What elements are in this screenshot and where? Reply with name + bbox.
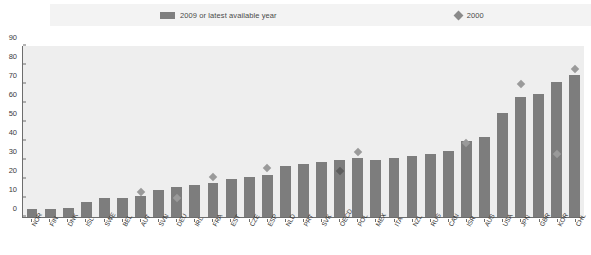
bar-column[interactable]: [421, 46, 439, 217]
x-axis-cell: GBR: [530, 219, 548, 255]
x-axis-cell: JPN: [511, 219, 529, 255]
legend-label-points: 2000: [467, 11, 484, 20]
bars-layer: [23, 46, 584, 217]
bar-column[interactable]: [349, 46, 367, 217]
data-point-marker[interactable]: [571, 65, 579, 73]
x-axis-cell: CHL: [566, 219, 584, 255]
bar-column[interactable]: [548, 46, 566, 217]
bar-column[interactable]: [331, 46, 349, 217]
bar[interactable]: [244, 177, 255, 217]
diamond-marker-icon: [453, 10, 463, 20]
bar-column[interactable]: [258, 46, 276, 217]
bar-column[interactable]: [77, 46, 95, 217]
x-axis-cell: PRT: [294, 219, 312, 255]
x-axis-cell: SVN: [149, 219, 167, 255]
x-axis-cell: CAN: [439, 219, 457, 255]
bar[interactable]: [497, 113, 508, 218]
bar-column[interactable]: [168, 46, 186, 217]
y-axis-tick-label: 20: [0, 166, 23, 175]
bar-column[interactable]: [475, 46, 493, 217]
x-axis-cell: AUT: [131, 219, 149, 255]
bar-column[interactable]: [294, 46, 312, 217]
x-axis-labels: NORFINDNKISLSWEBELAUTSVNDEUIRLFRAESTCZEE…: [22, 219, 584, 255]
bar-column[interactable]: [204, 46, 222, 217]
bar[interactable]: [389, 158, 400, 217]
bar-column[interactable]: [493, 46, 511, 217]
bar-column[interactable]: [23, 46, 41, 217]
y-axis-tick-label: 80: [0, 52, 23, 61]
x-axis-cell: NOR: [22, 219, 40, 255]
plot-inner: 0102030405060708090: [23, 46, 584, 217]
bar[interactable]: [407, 156, 418, 217]
bar[interactable]: [352, 158, 363, 217]
x-axis-cell: ISR: [457, 219, 475, 255]
data-point-marker[interactable]: [516, 80, 524, 88]
bar[interactable]: [189, 185, 200, 217]
bar[interactable]: [569, 75, 580, 218]
x-axis-cell: OECD: [330, 219, 348, 255]
x-axis-cell: DEU: [167, 219, 185, 255]
bar[interactable]: [443, 151, 454, 218]
legend-entry-bars: 2009 or latest available year: [160, 11, 277, 20]
bar-column[interactable]: [276, 46, 294, 217]
bar[interactable]: [262, 175, 273, 217]
bar[interactable]: [515, 97, 526, 217]
data-point-marker[interactable]: [263, 163, 271, 171]
bar-column[interactable]: [150, 46, 168, 217]
x-axis-cell: KOR: [548, 219, 566, 255]
x-axis-cell: AUS: [475, 219, 493, 255]
bar-column[interactable]: [566, 46, 584, 217]
y-axis-tick-label: 60: [0, 90, 23, 99]
bar-column[interactable]: [113, 46, 131, 217]
bar[interactable]: [370, 160, 381, 217]
legend-entry-points: 2000: [455, 11, 484, 20]
x-axis-cell: DNK: [58, 219, 76, 255]
bar[interactable]: [298, 164, 309, 217]
bar[interactable]: [479, 137, 490, 217]
bar-column[interactable]: [222, 46, 240, 217]
bar-column[interactable]: [313, 46, 331, 217]
plot-area: 0102030405060708090: [22, 46, 584, 218]
bar-column[interactable]: [385, 46, 403, 217]
y-axis-tick-label: 30: [0, 147, 23, 156]
x-axis-cell: IRL: [185, 219, 203, 255]
x-axis-cell: ITA: [385, 219, 403, 255]
bar[interactable]: [280, 166, 291, 217]
bar-column[interactable]: [59, 46, 77, 217]
bar-column[interactable]: [186, 46, 204, 217]
x-axis-cell: POL: [348, 219, 366, 255]
legend-label-bars: 2009 or latest available year: [180, 11, 277, 20]
x-axis-cell: NLD: [276, 219, 294, 255]
bar-column[interactable]: [439, 46, 457, 217]
y-axis-tick-label: 90: [0, 33, 23, 42]
y-axis-tick-label: 40: [0, 128, 23, 137]
chart-legend: 2009 or latest available year 2000: [50, 4, 591, 26]
data-point-marker[interactable]: [353, 148, 361, 156]
bar-swatch-icon: [160, 12, 175, 19]
x-axis-cell: SVK: [312, 219, 330, 255]
x-axis-cell: CZE: [240, 219, 258, 255]
bar-column[interactable]: [403, 46, 421, 217]
x-axis-cell: EST: [221, 219, 239, 255]
bar-column[interactable]: [367, 46, 385, 217]
bar[interactable]: [461, 141, 472, 217]
bar-column[interactable]: [240, 46, 258, 217]
bar[interactable]: [316, 162, 327, 217]
bar[interactable]: [533, 94, 544, 218]
bar[interactable]: [226, 179, 237, 217]
bar[interactable]: [81, 202, 92, 217]
bar-column[interactable]: [41, 46, 59, 217]
chart-container: 2009 or latest available year 2000 01020…: [0, 0, 591, 255]
bar[interactable]: [425, 154, 436, 217]
x-axis-cell: RUS: [421, 219, 439, 255]
bar-column[interactable]: [132, 46, 150, 217]
x-axis-cell: FRA: [203, 219, 221, 255]
bar-column[interactable]: [512, 46, 530, 217]
x-axis-cell: BEL: [113, 219, 131, 255]
x-axis-cell: ESP: [258, 219, 276, 255]
data-point-marker[interactable]: [209, 173, 217, 181]
bar-column[interactable]: [457, 46, 475, 217]
bar-column[interactable]: [95, 46, 113, 217]
x-axis-cell: SWE: [95, 219, 113, 255]
bar-column[interactable]: [530, 46, 548, 217]
